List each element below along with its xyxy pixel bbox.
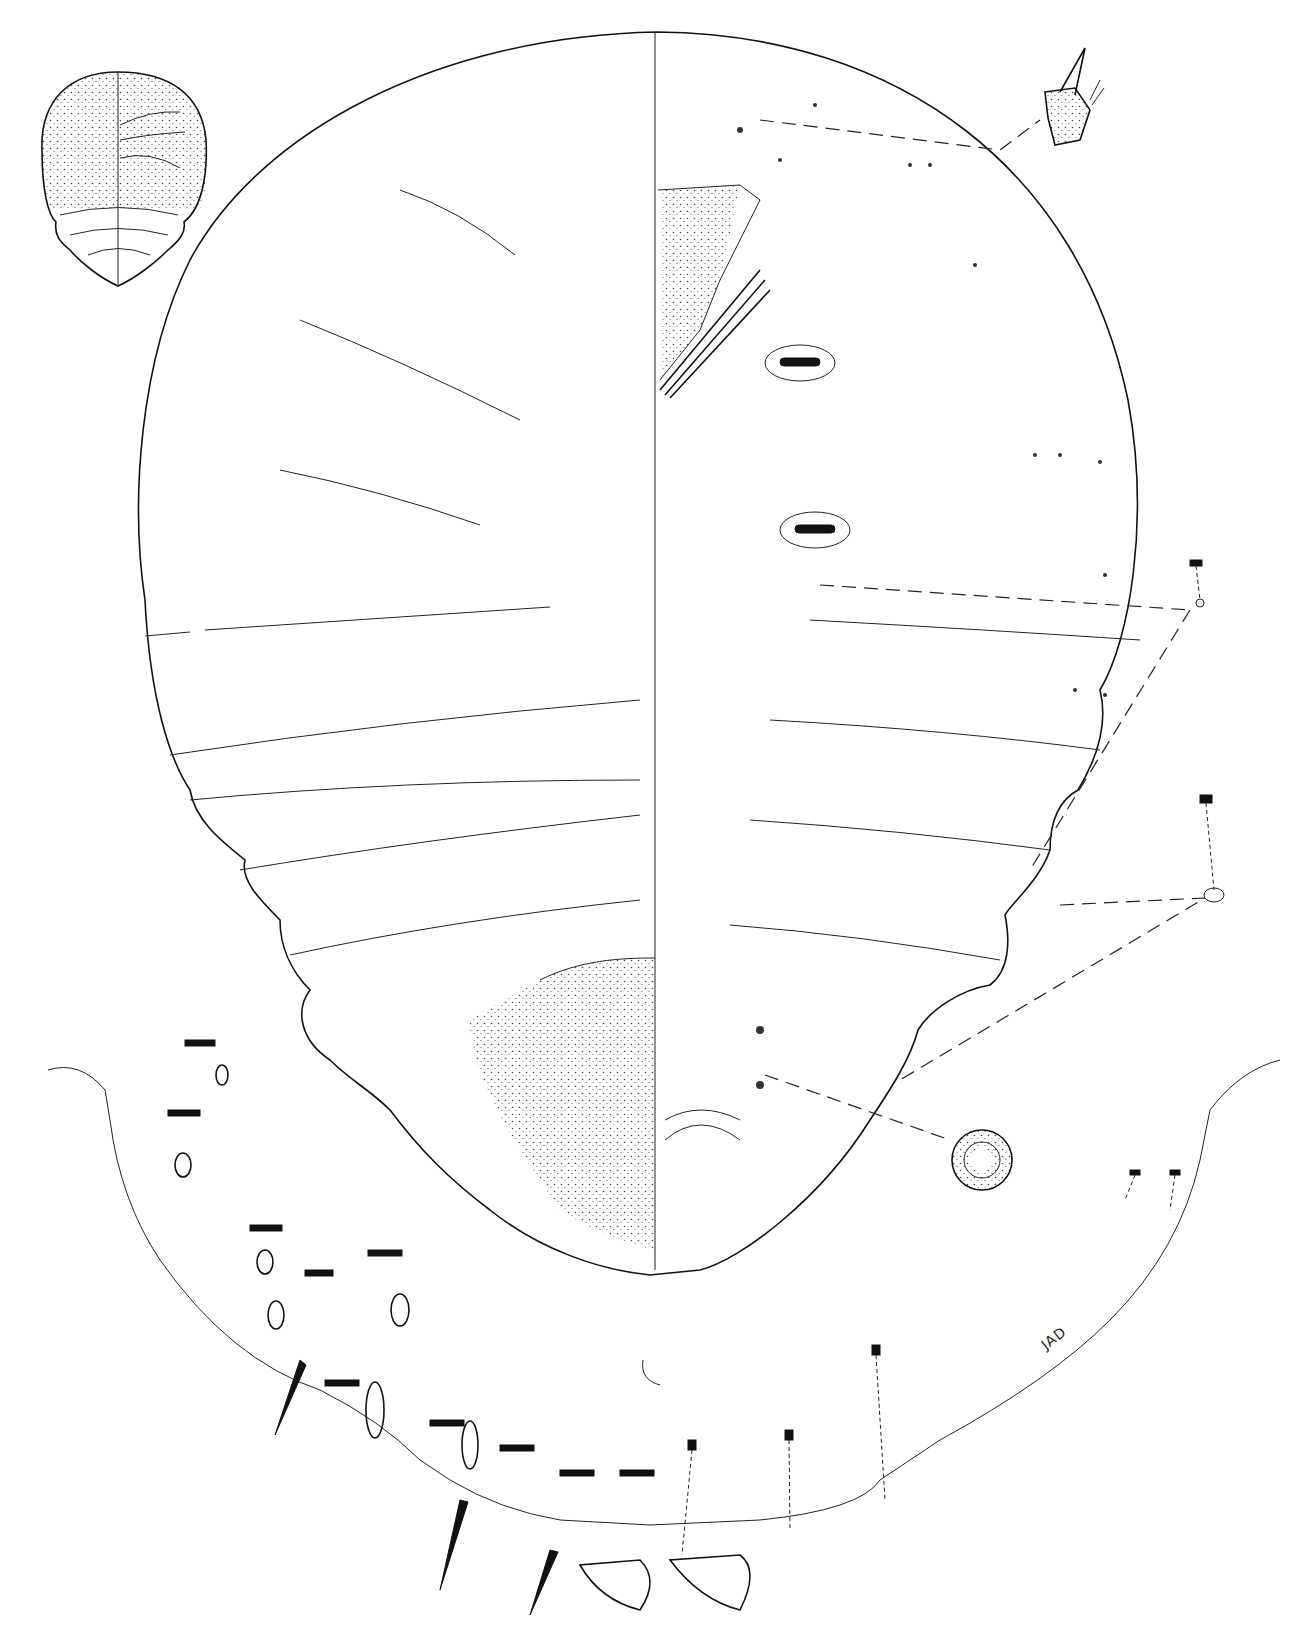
main-body-outline (139, 32, 1140, 1275)
habitus-inset (42, 72, 207, 286)
spiracle-detail (820, 560, 1224, 1080)
ventral-structures (658, 103, 1107, 1140)
scale-insect-illustration (0, 0, 1312, 1638)
pygidium-enlargement (48, 1040, 1280, 1615)
antenna-detail (760, 48, 1104, 150)
